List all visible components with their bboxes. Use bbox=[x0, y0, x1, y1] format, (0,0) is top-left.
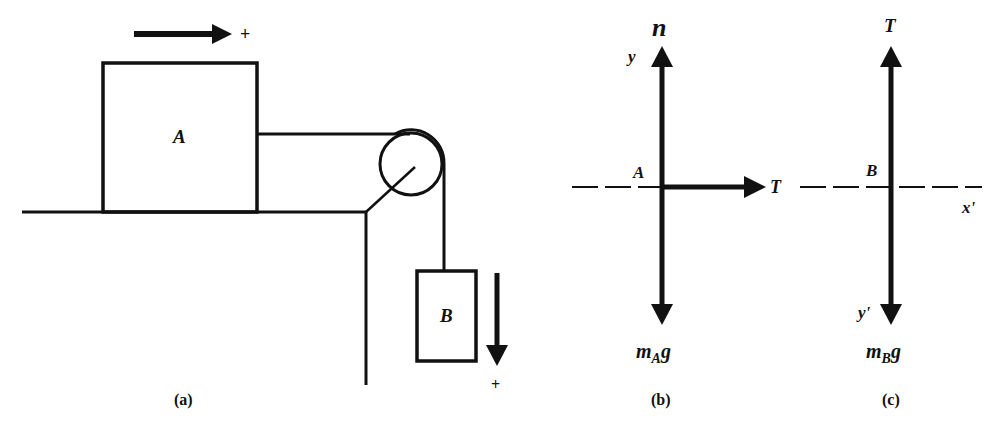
weight-arrowhead-icon bbox=[651, 304, 673, 325]
normal-force-arrowhead-icon bbox=[651, 46, 673, 67]
pulley-bracket bbox=[366, 167, 415, 212]
panel-c: T B x' y' mBg (c) bbox=[800, 15, 982, 409]
figure-canvas: + A B + bbox=[0, 0, 992, 423]
caption-b: (b) bbox=[651, 391, 671, 409]
weight-main-b: m bbox=[866, 340, 882, 362]
panel-b: n y A T mAg (b) bbox=[572, 13, 782, 409]
y-prime-label: y' bbox=[856, 303, 871, 322]
positive-direction-arrow-b-icon bbox=[486, 273, 508, 366]
plus-label-a: + bbox=[240, 24, 250, 44]
physics-figure: + A B + bbox=[0, 0, 992, 423]
block-b-label: B bbox=[439, 305, 453, 326]
weight-main: m bbox=[636, 340, 652, 362]
tension-label-a: T bbox=[770, 177, 782, 197]
weight-arrowhead-b-icon bbox=[880, 304, 902, 325]
pulley-icon bbox=[380, 133, 442, 195]
origin-label-a: A bbox=[632, 163, 644, 182]
y-axis-label: y bbox=[626, 47, 636, 66]
origin-label-b: B bbox=[865, 161, 877, 180]
caption-c: (c) bbox=[882, 391, 900, 409]
weight-subscript: A bbox=[651, 351, 661, 366]
x-prime-label: x' bbox=[961, 198, 976, 217]
panel-a: + A B + bbox=[22, 24, 508, 409]
tension-arrowhead-icon bbox=[744, 176, 766, 198]
caption-a: (a) bbox=[174, 391, 193, 409]
weight-g: g bbox=[660, 340, 671, 363]
plus-label-b: + bbox=[491, 376, 500, 393]
positive-direction-arrow-a-icon bbox=[134, 24, 232, 44]
tension-arrowhead-b-icon bbox=[880, 46, 902, 67]
tension-label-b: T bbox=[884, 15, 897, 36]
weight-label-b: mBg bbox=[866, 340, 901, 366]
weight-g-b: g bbox=[890, 340, 901, 363]
weight-subscript-b: B bbox=[881, 351, 891, 366]
weight-label-a: mAg bbox=[636, 340, 671, 366]
block-a-label: A bbox=[172, 126, 186, 147]
normal-force-label: n bbox=[652, 13, 666, 42]
